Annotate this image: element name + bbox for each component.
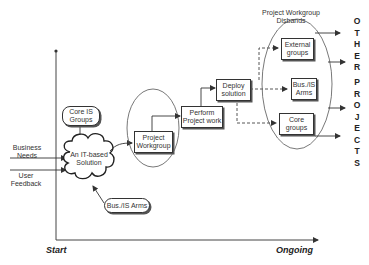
letter: S (352, 158, 362, 170)
core-is-groups-node: Core IS Groups (62, 106, 100, 126)
letter: H (352, 39, 362, 51)
deploy-solution-node: Deploy solution (216, 79, 251, 101)
core-groups-node: Core groups (279, 113, 314, 135)
deploy-to-external-dashed (259, 48, 278, 80)
disbands-annotation: Project Workgroup Disbands (256, 9, 326, 25)
letter: J (352, 112, 362, 124)
workgroup-to-perform-arrow (152, 116, 180, 132)
workgroup-ellipse (127, 89, 179, 167)
y-axis (54, 49, 57, 240)
projects-vertical-text: P R O J E C T S (352, 77, 362, 169)
letter: E (352, 123, 362, 135)
bus-is-arms-input-node: Bus./IS Arms (104, 198, 150, 213)
external-groups-node: External groups (281, 38, 314, 60)
letter: P (352, 77, 362, 89)
x-axis-end-label: Ongoing (276, 245, 313, 255)
letter: R (352, 62, 362, 74)
project-workgroup-node: Project Workgroup (134, 131, 173, 153)
x-axis-start-label: Start (46, 245, 67, 255)
business-needs-label: Business Needs (8, 144, 46, 160)
perform-project-work-node: Perform Project work (181, 106, 223, 128)
letter: T (352, 146, 362, 158)
letter: E (352, 51, 362, 63)
user-feedback-label: User Feedback (6, 172, 46, 188)
letter: T (352, 28, 362, 40)
deploy-to-core-dashed (237, 103, 276, 123)
bus-is-arms-to-solution-arrow (93, 186, 104, 203)
letter: C (352, 135, 362, 147)
letter: O (352, 16, 362, 28)
it-solution-label: An IT-based Solution (66, 151, 112, 167)
perform-to-deploy-arrow (201, 88, 215, 107)
other-vertical-text: O T H E R (352, 16, 362, 74)
letter: O (352, 100, 362, 112)
bus-is-arms-output-node: Bus./IS Arms (291, 78, 317, 100)
letter: R (352, 89, 362, 101)
